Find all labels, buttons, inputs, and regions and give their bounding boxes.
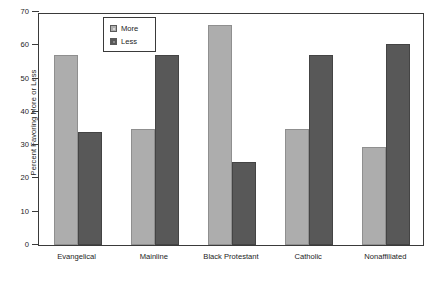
chart-legend: More Less xyxy=(103,17,156,52)
legend-item-more: More xyxy=(110,22,155,35)
y-axis-tick: 60 xyxy=(32,44,39,45)
bar-more-catholic xyxy=(285,129,309,246)
x-axis-label-nonaffiliated: Nonaffiliated xyxy=(364,252,406,261)
y-axis-tick-label: 50 xyxy=(21,74,29,83)
bar-less-black-protestant xyxy=(232,162,256,245)
y-axis-tick-label: 10 xyxy=(21,207,29,216)
bar-more-mainline xyxy=(131,129,155,246)
y-axis-tick: 0 xyxy=(32,244,39,245)
x-axis-label-mainline: Mainline xyxy=(140,252,168,261)
y-axis-tick: 40 xyxy=(32,111,39,112)
bar-less-catholic xyxy=(309,55,333,245)
bar-less-mainline xyxy=(155,55,179,245)
x-axis-label-black-protestant: Black Protestant xyxy=(203,252,258,261)
y-axis-tick: 30 xyxy=(32,144,39,145)
plot-area: 010203040506070 xyxy=(38,13,424,246)
x-axis-label-evangelical: Evangelical xyxy=(57,252,96,261)
y-axis-tick-label: 60 xyxy=(21,40,29,49)
y-axis-tick: 70 xyxy=(32,11,39,12)
plot-inner: 010203040506070 xyxy=(39,14,423,245)
bar-chart: Percent Favoring More or Less 0102030405… xyxy=(0,0,438,292)
legend-swatch-more-icon xyxy=(110,25,117,32)
y-axis-title: Percent Favoring More or Less xyxy=(29,28,38,218)
y-axis-tick: 20 xyxy=(32,177,39,178)
legend-swatch-less-icon xyxy=(110,38,117,45)
bar-less-nonaffiliated xyxy=(386,44,410,245)
y-axis-tick-label: 40 xyxy=(21,107,29,116)
bar-more-nonaffiliated xyxy=(362,147,386,245)
y-axis-tick-label: 0 xyxy=(25,240,29,249)
bar-more-evangelical xyxy=(54,55,78,245)
legend-label-less: Less xyxy=(121,37,137,46)
y-axis-tick-label: 30 xyxy=(21,140,29,149)
x-axis-label-catholic: Catholic xyxy=(294,252,321,261)
y-axis-tick: 50 xyxy=(32,78,39,79)
bar-less-evangelical xyxy=(78,132,102,245)
y-axis-tick: 10 xyxy=(32,211,39,212)
y-axis-tick-label: 20 xyxy=(21,173,29,182)
bar-more-black-protestant xyxy=(208,25,232,245)
legend-item-less: Less xyxy=(110,35,155,48)
y-axis-tick-label: 70 xyxy=(21,7,29,16)
legend-label-more: More xyxy=(121,24,138,33)
